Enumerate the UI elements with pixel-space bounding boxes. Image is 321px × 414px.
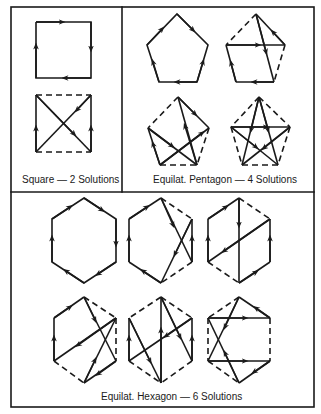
hexagon-solution-1 (52, 198, 116, 283)
square-solution-1 (36, 22, 91, 78)
hexagon-solution-3 (208, 198, 270, 283)
pentagon-solution-2 (226, 14, 285, 82)
figure-canvas (0, 0, 321, 414)
pentagon-solution-1 (147, 14, 208, 82)
hexagon-solution-4 (54, 297, 116, 383)
hexagon-caption: Equilat. Hexagon — 6 Solutions (101, 391, 242, 402)
outer-frame (11, 7, 314, 407)
hexagon-solution-6 (208, 297, 270, 383)
pentagon-caption: Equilat. Pentagon — 4 Solutions (153, 174, 297, 185)
pentagon-solution-3 (148, 97, 209, 165)
square-solution-2 (36, 95, 91, 152)
hexagon-solution-5 (129, 297, 192, 383)
pentagon-solution-4 (231, 97, 290, 165)
square-caption: Square — 2 Solutions (22, 174, 119, 185)
hexagon-solution-2 (129, 198, 192, 283)
